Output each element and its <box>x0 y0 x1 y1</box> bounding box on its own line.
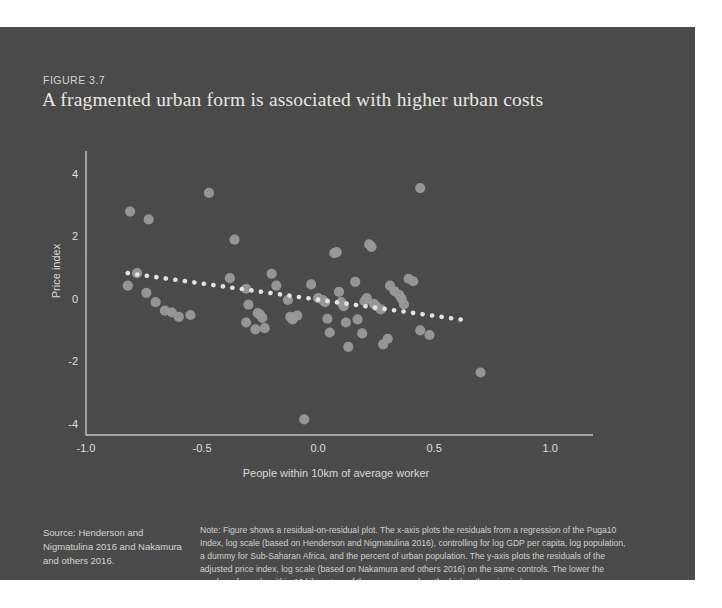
scatter-point <box>408 276 418 286</box>
scatter-point <box>352 314 362 324</box>
scatter-point <box>325 327 335 337</box>
scatter-point <box>204 188 214 198</box>
scatter-point <box>267 269 277 279</box>
scatter-point <box>332 247 342 257</box>
scatter-point <box>151 297 161 307</box>
source-note: Source: Henderson and Nigmatulina 2016 a… <box>43 526 193 567</box>
scatter-point <box>125 206 135 216</box>
figure-panel: FIGURE 3.7 A fragmented urban form is as… <box>0 27 695 580</box>
scatter-point <box>343 342 353 352</box>
scatter-point <box>415 325 425 335</box>
scatter-plot: Price index People within 10km of averag… <box>0 27 695 580</box>
x-tick-label: 0.5 <box>409 442 459 454</box>
plot-canvas <box>0 27 695 497</box>
scatter-point <box>243 300 253 310</box>
x-tick-label: -1.0 <box>61 442 111 454</box>
x-tick-label: 1.0 <box>525 442 575 454</box>
scatter-point <box>123 281 133 291</box>
y-tick-label: -4 <box>44 418 78 430</box>
scatter-point <box>366 242 376 252</box>
x-tick-label: -0.5 <box>177 442 227 454</box>
scatter-point <box>322 314 332 324</box>
scatter-point <box>144 214 154 224</box>
y-axis-title: Price index <box>50 211 62 331</box>
scatter-point <box>257 313 267 323</box>
y-tick-label: 4 <box>44 168 78 180</box>
y-tick-label: 2 <box>44 230 78 242</box>
scatter-point <box>475 367 485 377</box>
x-tick-label: 0.0 <box>293 442 343 454</box>
scatter-point <box>334 287 344 297</box>
scatter-point <box>141 288 151 298</box>
x-axis-title: People within 10km of average worker <box>86 467 586 479</box>
scatter-point <box>225 273 235 283</box>
scatter-point <box>260 323 270 333</box>
scatter-point <box>299 414 309 424</box>
scatter-point <box>185 310 195 320</box>
figure-note: Note: Figure shows a residual-on-residua… <box>200 524 630 580</box>
scatter-point <box>383 334 393 344</box>
scatter-point <box>350 277 360 287</box>
scatter-point <box>357 328 367 338</box>
scatter-point <box>399 299 409 309</box>
scatter-point <box>292 311 302 321</box>
scatter-point <box>306 279 316 289</box>
scatter-point <box>341 317 351 327</box>
y-tick-label: 0 <box>44 293 78 305</box>
scatter-point <box>415 183 425 193</box>
scatter-point <box>424 330 434 340</box>
scatter-point <box>241 317 251 327</box>
scatter-point <box>250 324 260 334</box>
scatter-point <box>174 312 184 322</box>
scatter-point <box>229 235 239 245</box>
y-tick-label: -2 <box>44 355 78 367</box>
scatter-point <box>271 281 281 291</box>
